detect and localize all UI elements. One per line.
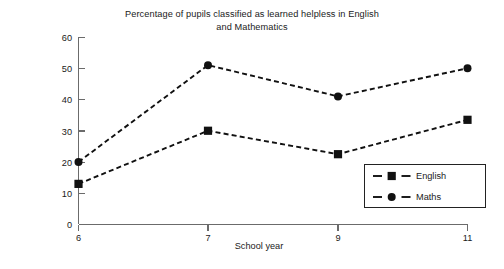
- series-maths-point-1: [204, 61, 212, 69]
- legend-marker-square-icon: [372, 169, 412, 183]
- legend-label-english: English: [416, 171, 446, 181]
- chart-figure: Percentage of pupils classified as learn…: [0, 0, 504, 269]
- legend-marker-circle-icon: [372, 190, 412, 204]
- y-axis-ticks: [79, 38, 86, 225]
- x-axis-ticks: [79, 225, 468, 232]
- series-maths: [75, 61, 472, 166]
- chart-legend[interactable]: English Maths: [364, 164, 486, 208]
- y-tick-label-60: 60: [62, 33, 72, 43]
- legend-item-maths[interactable]: Maths: [365, 186, 487, 208]
- series-maths-point-0: [75, 158, 83, 166]
- legend-label-maths: Maths: [416, 192, 441, 202]
- legend-item-english[interactable]: English: [365, 165, 487, 187]
- series-english-point-0: [74, 180, 82, 188]
- series-english-point-2: [334, 150, 342, 158]
- x-axis-title-text: School year: [235, 241, 284, 251]
- y-tick-label-50: 50: [62, 64, 72, 74]
- series-maths-line: [79, 65, 468, 162]
- plot-area: 60 50 40 30 20 10 0 6 7 9 11: [0, 0, 504, 269]
- y-tick-label-10: 10: [62, 189, 72, 199]
- y-tick-label-0: 0: [67, 220, 72, 230]
- x-axis-title: School year: [0, 241, 504, 251]
- y-tick-label-20: 20: [62, 158, 72, 168]
- series-english-point-3: [463, 116, 471, 124]
- series-maths-point-2: [334, 92, 342, 100]
- y-tick-label-40: 40: [62, 95, 72, 105]
- series-maths-point-3: [464, 64, 472, 72]
- y-tick-label-30: 30: [62, 127, 72, 137]
- series-english-point-1: [204, 127, 212, 135]
- y-axis-tick-labels: 60 50 40 30 20 10 0: [62, 33, 72, 230]
